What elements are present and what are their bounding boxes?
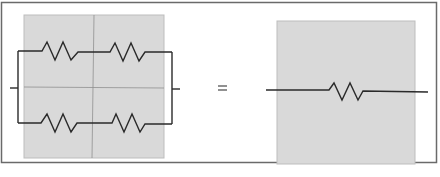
circuit-equivalence-diagram	[0, 0, 440, 177]
right-network	[266, 21, 428, 164]
left-network	[10, 15, 180, 158]
